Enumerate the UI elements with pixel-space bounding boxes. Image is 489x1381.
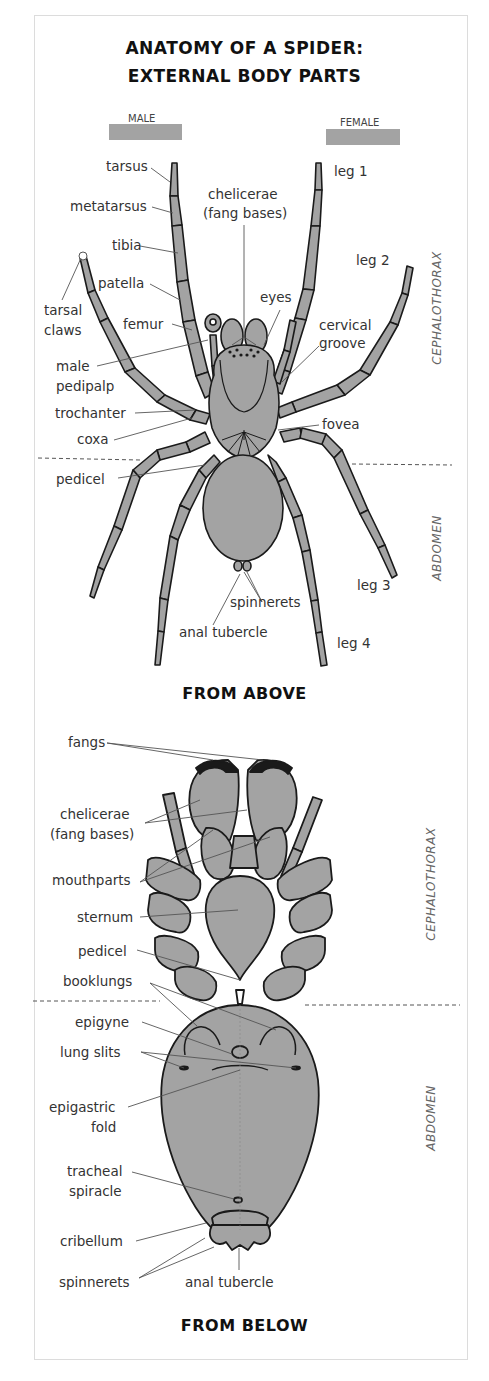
coxa-l4 [175,967,216,1001]
label-cervical-groove-1: cervical [319,317,371,334]
label-trochanter: trochanter [55,405,126,422]
spinneret-cluster [210,1225,270,1250]
label-chelicerae-below-2: (fang bases) [50,826,134,843]
label-fovea: fovea [322,416,360,433]
region-cephalothorax-top: CEPHALOTHORAX [430,248,446,368]
label-spinnerets-below: spinnerets [59,1274,130,1291]
label-epigyne: epigyne [75,1014,129,1031]
coxa-r4 [264,967,305,1001]
label-tarsal-claws-1: tarsal [44,302,82,319]
label-leg-1: leg 1 [334,163,368,180]
label-spinnerets-top: spinnerets [230,594,301,611]
label-sternum: sternum [77,909,133,926]
label-male-pedipalp-1: male [56,358,89,375]
label-pedicel-top: pedicel [56,471,105,488]
spinneret-right [243,561,251,571]
label-fangs: fangs [68,734,105,751]
caption-from-below: FROM BELOW [0,1316,489,1335]
spinneret-left [234,561,242,571]
label-chelicerae-2: (fang bases) [203,205,287,222]
label-tracheal-spiracle-2: spiracle [69,1183,122,1200]
label-coxa: coxa [77,431,109,448]
abdomen-top [203,455,283,561]
label-anal-tubercle-below: anal tubercle [185,1274,274,1291]
label-mouthparts: mouthparts [52,872,131,889]
label-tarsus: tarsus [106,158,148,175]
pedipalp-right [293,797,322,852]
label-cervical-groove-2: groove [319,335,366,352]
sternum [206,876,275,980]
label-leg-2: leg 2 [356,252,390,269]
label-tracheal-spiracle-1: tracheal [67,1163,122,1180]
label-pedicel-below: pedicel [78,943,127,960]
label-tarsal-claws-2: claws [44,322,82,339]
caption-from-above: FROM ABOVE [0,684,489,703]
label-chelicerae-1: chelicerae [208,186,278,203]
label-tibia: tibia [112,237,142,254]
label-metatarsus: metatarsus [70,198,147,215]
region-abdomen-below: ABDOMEN [424,1078,440,1158]
label-booklungs: booklungs [63,973,132,990]
label-chelicerae-below-1: chelicerae [60,806,130,823]
leg-1-right [272,163,322,394]
label-leg-3: leg 3 [357,577,391,594]
label-femur: femur [123,316,163,333]
label-epigastric-fold-2: fold [91,1119,116,1136]
region-cephalothorax-below: CEPHALOTHORAX [424,824,440,944]
label-leg-4: leg 4 [337,635,371,652]
leg-3-left [90,432,210,598]
region-abdomen-top: ABDOMEN [430,508,446,588]
pedipalp-left [163,793,186,852]
label-cribellum: cribellum [60,1233,123,1250]
label-patella: patella [98,275,144,292]
label-lung-slits: lung slits [60,1044,121,1061]
label-eyes: eyes [260,289,292,306]
label-epigastric-fold-1: epigastric [49,1099,116,1116]
labium [230,836,258,868]
label-anal-tubercle-top: anal tubercle [179,624,268,641]
label-male-pedipalp-2: pedipalp [56,378,114,395]
top-view-leader-lines [62,168,319,625]
